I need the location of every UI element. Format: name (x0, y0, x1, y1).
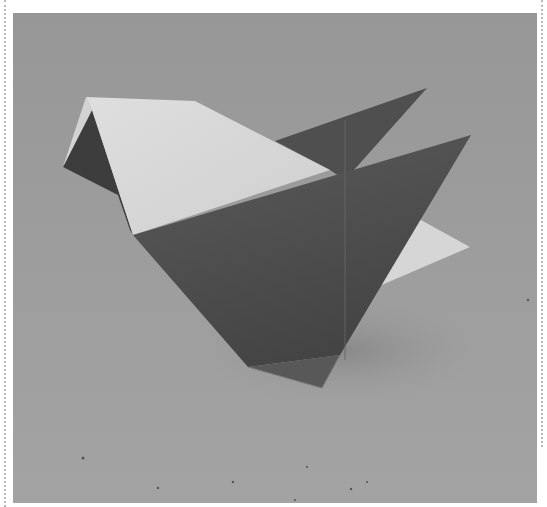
origami-bird-illustration (13, 13, 537, 503)
photograph: Origami paper bird (chick) in grey tones… (13, 13, 537, 503)
right-dotted-border (541, 0, 543, 447)
left-dotted-border (4, 0, 6, 507)
